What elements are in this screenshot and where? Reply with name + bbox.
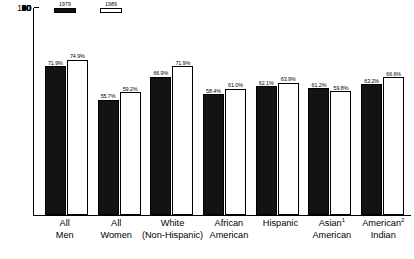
bar: 71.9% xyxy=(172,66,193,215)
bar-value-label: 74.9% xyxy=(70,53,85,59)
bar-value-label: 61.0% xyxy=(228,82,243,88)
bar: 59.2% xyxy=(120,92,141,215)
x-axis-label: AfricanAmerican xyxy=(203,218,254,256)
bar: 74.9% xyxy=(67,60,88,215)
bar-group: 58.4%61.0% xyxy=(198,8,251,215)
x-axis-label: AllMen xyxy=(39,218,90,256)
bar-value-label: 71.9% xyxy=(48,60,63,66)
x-axis-label: AllWomen xyxy=(90,218,141,256)
bar: 62.1% xyxy=(256,86,277,215)
bar-group: 61.2%59.8% xyxy=(304,8,357,215)
bar-value-label: 66.6% xyxy=(386,71,401,77)
bar-group: 62.1%63.9% xyxy=(251,8,304,215)
legend-label-1989: 1989 xyxy=(105,1,117,7)
bar: 55.7% xyxy=(98,100,119,215)
bar-group: 66.9%71.9% xyxy=(145,8,198,215)
bar-value-label: 62.1% xyxy=(259,80,274,86)
plot-area: 100908070605040302010 71.9%74.9%55.7%59.… xyxy=(33,8,411,216)
x-axis-label: Hispanic xyxy=(255,218,306,256)
x-axis-label: Asian1American xyxy=(306,218,357,256)
footnote-marker: 2 xyxy=(401,217,404,223)
bar-value-label: 71.9% xyxy=(175,60,190,66)
bar-group: 71.9%74.9% xyxy=(40,8,93,215)
legend-label-1979: 1979 xyxy=(59,1,71,7)
bar-value-label: 59.8% xyxy=(334,85,349,91)
x-axis-label: White(Non-Hispanic) xyxy=(142,218,203,256)
footnote-marker: 1 xyxy=(342,217,345,223)
bar-value-label: 59.2% xyxy=(123,86,138,92)
bar-value-label: 61.2% xyxy=(312,82,327,88)
x-axis-label: American2Indian xyxy=(358,218,409,256)
bar-group: 55.7%59.2% xyxy=(93,8,146,215)
bar: 61.2% xyxy=(308,88,329,215)
bar: 71.9% xyxy=(45,66,66,215)
bar-groups: 71.9%74.9%55.7%59.2%66.9%71.9%58.4%61.0%… xyxy=(34,8,411,215)
bar-value-label: 66.9% xyxy=(153,70,168,76)
bar-value-label: 58.4% xyxy=(206,88,221,94)
bar-value-label: 63.2% xyxy=(364,78,379,84)
bar-group: 63.2%66.6% xyxy=(356,8,409,215)
bar: 66.6% xyxy=(383,77,404,215)
bar: 61.0% xyxy=(225,89,246,215)
bar-value-label: 55.7% xyxy=(101,93,116,99)
bar: 66.9% xyxy=(150,77,171,215)
bar: 63.2% xyxy=(361,84,382,215)
bar: 58.4% xyxy=(203,94,224,215)
x-axis-labels: AllMenAllWomenWhite(Non-Hispanic)African… xyxy=(33,218,411,256)
bar: 63.9% xyxy=(278,83,299,215)
bar-chart: 1979 1989 100908070605040302010 71.9%74.… xyxy=(0,0,414,259)
bar-value-label: 63.9% xyxy=(281,76,296,82)
y-tick-label-10: 10 xyxy=(22,4,31,13)
bar: 59.8% xyxy=(330,91,351,215)
